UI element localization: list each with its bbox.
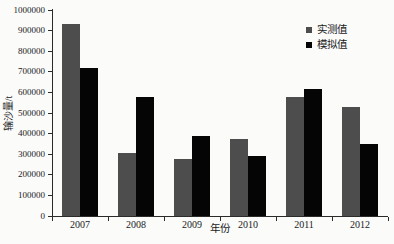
x-tick-label: 2012 (338, 219, 382, 231)
y-tick (48, 154, 52, 155)
legend-label: 模拟值 (317, 38, 347, 51)
x-tick-label: 2010 (226, 219, 270, 231)
y-tick (48, 51, 52, 52)
y-tick-label: 500000 (0, 108, 45, 119)
y-axis-line (52, 9, 53, 217)
bar (174, 159, 192, 216)
x-tick (108, 217, 109, 221)
y-tick (48, 133, 52, 134)
x-tick-label: 2009 (170, 219, 214, 231)
y-tick-label: 800000 (0, 46, 45, 57)
legend-label: 实测值 (317, 23, 347, 36)
x-tick-label: 2011 (282, 219, 326, 231)
bar (136, 97, 154, 216)
y-tick-label: 0 (0, 211, 45, 222)
bar (80, 68, 98, 216)
y-tick (48, 71, 52, 72)
y-tick-label: 1000000 (0, 5, 45, 16)
y-tick-label: 700000 (0, 66, 45, 77)
legend-swatch-icon (306, 42, 312, 48)
y-tick-label: 900000 (0, 25, 45, 36)
y-tick-label: 600000 (0, 87, 45, 98)
bar (304, 89, 322, 216)
x-tick (52, 217, 53, 221)
y-tick-label: 100000 (0, 190, 45, 201)
bar (62, 24, 80, 216)
bar (248, 156, 266, 216)
y-tick (48, 30, 52, 31)
bar (118, 153, 136, 216)
y-tick (48, 195, 52, 196)
legend-swatch-icon (306, 27, 312, 33)
x-tick (276, 217, 277, 221)
bar (192, 136, 210, 216)
y-tick (48, 113, 52, 114)
bar (230, 139, 248, 216)
legend-item: 模拟值 (306, 37, 347, 52)
y-tick-label: 400000 (0, 128, 45, 139)
x-tick (164, 217, 165, 221)
legend-item: 实测值 (306, 22, 347, 37)
x-tick (220, 217, 221, 221)
legend: 实测值模拟值 (306, 22, 347, 52)
bar (286, 97, 304, 216)
y-tick-label: 200000 (0, 169, 45, 180)
bar (360, 144, 378, 216)
y-tick (48, 174, 52, 175)
x-tick (388, 217, 389, 221)
bar-chart-figure: 输沙量/t 年份 实测值模拟值 010000020000030000040000… (0, 0, 394, 244)
y-tick-label: 300000 (0, 149, 45, 160)
x-tick-label: 2007 (58, 219, 102, 231)
x-tick (332, 217, 333, 221)
y-tick (48, 92, 52, 93)
y-tick (48, 10, 52, 11)
bar (342, 107, 360, 216)
x-tick-label: 2008 (114, 219, 158, 231)
